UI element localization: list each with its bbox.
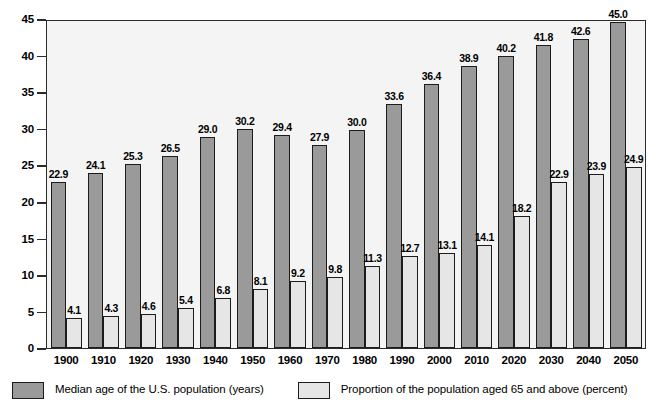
bar-median-age: 29.0 <box>200 137 216 347</box>
bar-proportion-65: 24.9 <box>626 167 642 347</box>
bar-group: 27.99.8 <box>309 22 346 348</box>
x-axis-tick-label: 1900 <box>48 350 85 370</box>
bar-value-label: 27.9 <box>310 132 329 143</box>
x-axis-tick-label: 1950 <box>234 350 271 370</box>
bar-value-label: 26.5 <box>161 143 180 154</box>
bar-median-age: 25.3 <box>125 164 141 347</box>
bar-value-label: 29.4 <box>273 122 292 133</box>
bar-value-label: 11.3 <box>363 253 382 264</box>
y-axis-tick-label: 5 <box>28 307 37 319</box>
legend-item-median-age: Median age of the U.S. population (years… <box>12 382 264 399</box>
bar-proportion-65: 5.4 <box>178 308 194 347</box>
bar-group: 36.413.1 <box>421 22 458 348</box>
y-axis-tick-label: 20 <box>22 197 37 209</box>
y-axis-tick-mark <box>37 348 46 350</box>
bar-group: 45.024.9 <box>607 22 644 348</box>
y-axis-tick: 25 <box>22 159 46 173</box>
bar-proportion-65: 14.1 <box>477 245 493 347</box>
x-axis-tick-label: 1990 <box>383 350 420 370</box>
bar-value-label: 36.4 <box>422 71 441 82</box>
y-axis-tick-label: 45 <box>22 14 37 26</box>
bar-group: 30.011.3 <box>346 22 383 348</box>
bar-value-label: 4.6 <box>142 301 156 312</box>
bar-value-label: 38.9 <box>459 53 478 64</box>
bar-median-age: 26.5 <box>162 156 178 348</box>
bar-groups: 22.94.124.14.325.34.626.55.429.06.830.28… <box>48 22 645 348</box>
x-axis-tick-label: 1980 <box>346 350 383 370</box>
y-axis: 454035302520151050 <box>0 20 46 349</box>
y-axis-tick-label: 35 <box>22 87 37 99</box>
bar-value-label: 18.2 <box>512 203 531 214</box>
legend-label-proportion-65: Proportion of the population aged 65 and… <box>341 384 628 396</box>
bar-proportion-65: 13.1 <box>439 253 455 348</box>
legend-item-proportion-65: Proportion of the population aged 65 and… <box>298 382 628 399</box>
y-axis-tick-mark <box>37 239 46 241</box>
bar-median-age: 30.2 <box>237 129 253 348</box>
bar-group: 38.914.1 <box>458 22 495 348</box>
y-axis-tick: 20 <box>22 196 46 210</box>
bar-value-label: 6.8 <box>216 285 230 296</box>
y-axis-tick: 15 <box>22 232 46 246</box>
bar-proportion-65: 4.3 <box>103 316 119 347</box>
bar-median-age: 24.1 <box>88 173 104 348</box>
y-axis-tick-mark <box>37 165 46 167</box>
bar-value-label: 9.8 <box>328 264 342 275</box>
bar-value-label: 9.2 <box>291 268 305 279</box>
bar-group: 30.28.1 <box>234 22 271 348</box>
bar-median-age: 42.6 <box>573 39 589 348</box>
bar-value-label: 13.1 <box>437 240 456 251</box>
bar-value-label: 4.3 <box>104 303 118 314</box>
bar-proportion-65: 23.9 <box>589 174 605 347</box>
x-axis-tick-label: 2030 <box>533 350 570 370</box>
bar-value-label: 14.1 <box>475 232 494 243</box>
y-axis-tick-label: 25 <box>22 160 37 172</box>
y-axis-tick-mark <box>37 312 46 314</box>
bar-median-age: 30.0 <box>349 130 365 347</box>
bar-median-age: 41.8 <box>536 45 552 348</box>
bar-group: 41.822.9 <box>533 22 570 348</box>
y-axis-tick: 40 <box>22 50 46 64</box>
bar-group: 22.94.1 <box>48 22 85 348</box>
x-axis-tick-label: 1940 <box>197 350 234 370</box>
bar-proportion-65: 18.2 <box>514 216 530 348</box>
bar-chart: 454035302520151050 22.94.124.14.325.34.6… <box>0 0 659 415</box>
y-axis-tick: 0 <box>28 342 46 356</box>
legend-swatch-light <box>298 382 330 399</box>
bar-value-label: 30.0 <box>347 117 366 128</box>
x-axis-tick-label: 1970 <box>309 350 346 370</box>
x-axis-tick-label: 1930 <box>159 350 196 370</box>
bar-value-label: 41.8 <box>534 32 553 43</box>
bar-value-label: 30.2 <box>235 116 254 127</box>
bar-proportion-65: 9.2 <box>290 281 306 348</box>
bar-proportion-65: 22.9 <box>551 182 567 348</box>
bar-proportion-65: 4.1 <box>66 318 82 348</box>
y-axis-tick-label: 10 <box>22 270 37 282</box>
bar-value-label: 22.9 <box>549 169 568 180</box>
y-axis-tick-label: 15 <box>22 234 37 246</box>
y-axis-tick-label: 40 <box>22 51 37 63</box>
bar-proportion-65: 6.8 <box>215 298 231 347</box>
y-axis-tick-mark <box>37 202 46 204</box>
legend-swatch-dark <box>12 382 44 399</box>
x-axis-tick-label: 2000 <box>421 350 458 370</box>
bar-proportion-65: 9.8 <box>327 277 343 348</box>
bar-proportion-65: 8.1 <box>253 289 269 348</box>
bar-median-age: 29.4 <box>274 135 290 348</box>
bar-group: 33.612.7 <box>383 22 420 348</box>
y-axis-tick: 45 <box>22 13 46 27</box>
chart-legend: Median age of the U.S. population (years… <box>12 378 652 402</box>
bar-median-age: 45.0 <box>610 22 626 348</box>
legend-label-median-age: Median age of the U.S. population (years… <box>55 384 264 396</box>
x-axis-tick-label: 2020 <box>495 350 532 370</box>
y-axis-tick-label: 0 <box>28 343 37 355</box>
y-axis-tick-mark <box>37 129 46 131</box>
bar-median-age: 27.9 <box>312 145 328 347</box>
x-axis: 1900191019201930194019501960197019801990… <box>48 350 645 370</box>
y-axis-tick: 30 <box>22 123 46 137</box>
y-axis-tick-mark <box>37 56 46 58</box>
x-axis-tick-label: 2050 <box>607 350 644 370</box>
x-axis-tick-label: 1960 <box>271 350 308 370</box>
bar-group: 24.14.3 <box>85 22 122 348</box>
bar-value-label: 12.7 <box>400 243 419 254</box>
y-axis-tick: 10 <box>22 269 46 283</box>
